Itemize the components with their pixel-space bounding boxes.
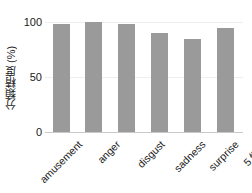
bar-5-emotions <box>217 28 234 133</box>
bar-amusement <box>53 24 70 132</box>
plot-area <box>45 22 243 132</box>
bar-anger <box>85 22 102 132</box>
x-axis-tick-labels: amusement anger disgust sadness surprise… <box>45 132 243 193</box>
bar-surprise <box>184 39 201 133</box>
x-tick-label-sadness: sadness <box>171 138 207 174</box>
x-tick-label-disgust: disgust <box>135 138 167 170</box>
x-tick-label-amusement: amusement <box>37 138 84 185</box>
gridline-100 <box>45 22 243 23</box>
x-tick-label-surprise: surprise <box>206 138 241 173</box>
y-tick-label-50: 50 <box>16 72 42 83</box>
x-tick-label-5-emotions: 5 情動 <box>239 138 252 169</box>
x-tick-label-anger: anger <box>95 138 122 165</box>
y-axis-tick-labels: 100 50 0 <box>14 0 42 193</box>
y-tick-label-100: 100 <box>16 17 42 28</box>
bar-sadness <box>151 33 168 132</box>
bar-chart-figure: 分類精度 (%) 100 50 0 amusement anger disgus… <box>0 0 252 193</box>
y-tick-label-0: 0 <box>16 127 42 138</box>
bar-disgust <box>118 24 135 132</box>
gridline-50 <box>45 77 243 78</box>
